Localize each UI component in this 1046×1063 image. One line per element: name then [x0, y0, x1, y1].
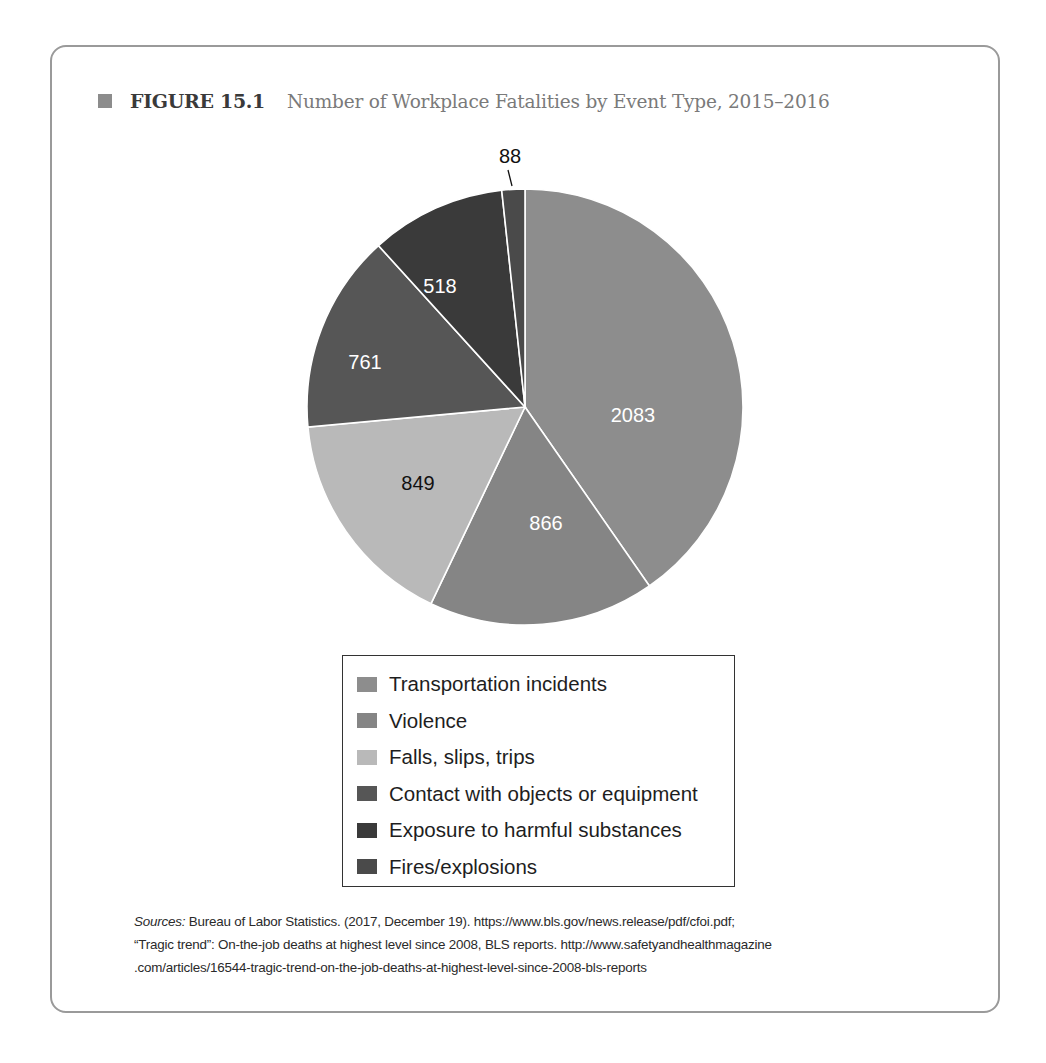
legend-item-contact: Contact with objects or equipment	[357, 776, 734, 813]
legend-swatch	[357, 677, 377, 692]
legend-label: Contact with objects or equipment	[389, 782, 698, 806]
legend-swatch	[357, 713, 377, 728]
legend-item-fires: Fires/explosions	[357, 849, 734, 886]
legend-item-violence: Violence	[357, 703, 734, 740]
legend-item-falls: Falls, slips, trips	[357, 739, 734, 776]
chart-legend: Transportation incidents Violence Falls,…	[342, 655, 735, 887]
legend-swatch	[357, 859, 377, 874]
legend-label: Transportation incidents	[389, 672, 607, 696]
sources-line-1: Sources: Bureau of Labor Statistics. (20…	[134, 910, 974, 933]
pie-chart: 208386684976151888	[0, 0, 1046, 1063]
legend-swatch	[357, 823, 377, 838]
legend-item-transportation: Transportation incidents	[357, 666, 734, 703]
pie-slices	[307, 189, 743, 625]
sources-line-2: “Tragic trend”: On-the-job deaths at hig…	[134, 933, 974, 956]
legend-label: Falls, slips, trips	[389, 745, 535, 769]
pie-label-falls: 849	[401, 472, 434, 494]
sources-line-3: .com/articles/16544-tragic-trend-on-the-…	[134, 956, 974, 979]
pie-label-violence: 866	[529, 512, 562, 534]
pie-label-transportation: 2083	[611, 404, 656, 426]
legend-label: Violence	[389, 709, 467, 733]
legend-item-exposure: Exposure to harmful substances	[357, 812, 734, 849]
legend-swatch	[357, 786, 377, 801]
leader-line	[508, 170, 512, 186]
legend-label: Fires/explosions	[389, 855, 537, 879]
legend-swatch	[357, 750, 377, 765]
sources-text-1: Bureau of Labor Statistics. (2017, Decem…	[185, 914, 734, 929]
pie-label-fires: 88	[499, 145, 521, 167]
sources-note: Sources: Bureau of Labor Statistics. (20…	[134, 910, 974, 979]
pie-label-exposure: 518	[423, 275, 456, 297]
sources-lead: Sources:	[134, 914, 185, 929]
legend-label: Exposure to harmful substances	[389, 818, 682, 842]
pie-label-contact: 761	[348, 351, 381, 373]
